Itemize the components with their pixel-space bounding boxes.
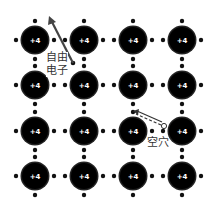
- valence-electron: [14, 129, 18, 133]
- valence-electron: [131, 148, 135, 152]
- valence-electron: [131, 102, 135, 106]
- atom: +4: [14, 155, 56, 197]
- atom-charge-label: +4: [79, 82, 90, 90]
- valence-electron: [180, 102, 184, 106]
- valence-electron: [63, 174, 67, 178]
- valence-electron: [180, 19, 184, 23]
- valence-electron: [112, 83, 116, 87]
- valence-electron: [33, 110, 37, 114]
- valence-electron: [180, 148, 184, 152]
- valence-electron: [14, 83, 18, 87]
- atom-charge-label: +4: [79, 128, 90, 136]
- valence-electron: [33, 102, 37, 106]
- atom: +4: [63, 64, 105, 106]
- valence-electron: [199, 129, 203, 133]
- atom-charge-label: +4: [30, 37, 41, 45]
- valence-electron: [150, 129, 154, 133]
- valence-electron: [82, 57, 86, 61]
- valence-electron: [33, 155, 37, 159]
- valence-electron: [131, 57, 135, 61]
- valence-electron: [63, 129, 67, 133]
- atom-charge-label: +4: [30, 82, 41, 90]
- silicon-lattice-diagram: +4+4+4+4+4+4+4+4+4+4+4+4+4+4+4+4: [0, 0, 218, 209]
- valence-electron: [33, 19, 37, 23]
- atom-charge-label: +4: [177, 173, 188, 181]
- atom-charge-label: +4: [79, 37, 90, 45]
- atom: +4: [14, 110, 56, 152]
- valence-electron: [150, 38, 154, 42]
- atom: +4: [112, 155, 154, 197]
- valence-electron: [52, 83, 56, 87]
- atom-charge-label: +4: [30, 128, 41, 136]
- valence-electron: [14, 38, 18, 42]
- atom-charge-label: +4: [128, 82, 139, 90]
- atoms-group: +4+4+4+4+4+4+4+4+4+4+4+4+4+4+4+4: [14, 19, 203, 197]
- valence-electron: [82, 64, 86, 68]
- valence-electron: [101, 129, 105, 133]
- hole-label: 空穴: [147, 137, 169, 149]
- atom: +4: [161, 64, 203, 106]
- valence-electron: [180, 64, 184, 68]
- valence-electron: [33, 193, 37, 197]
- valence-electron: [161, 174, 165, 178]
- atom: +4: [63, 155, 105, 197]
- valence-electron: [199, 83, 203, 87]
- valence-electron: [180, 193, 184, 197]
- valence-electron: [52, 174, 56, 178]
- valence-electron: [82, 155, 86, 159]
- valence-electron: [82, 193, 86, 197]
- valence-electron: [52, 129, 56, 133]
- atom-charge-label: +4: [128, 37, 139, 45]
- valence-electron: [180, 155, 184, 159]
- hole-circle: [161, 123, 166, 128]
- atom-charge-label: +4: [177, 82, 188, 90]
- valence-electron: [131, 155, 135, 159]
- valence-electron: [33, 64, 37, 68]
- valence-electron: [180, 57, 184, 61]
- valence-electron: [82, 110, 86, 114]
- atom-charge-label: +4: [128, 128, 139, 136]
- valence-electron: [63, 38, 67, 42]
- free-electron-label-1: 自由: [46, 52, 68, 64]
- atom-charge-label: +4: [128, 173, 139, 181]
- valence-electron: [131, 193, 135, 197]
- free-electron-label-2: 电子: [46, 65, 68, 77]
- valence-electron: [52, 38, 56, 42]
- valence-electron: [33, 57, 37, 61]
- valence-electron: [161, 38, 165, 42]
- valence-electron: [101, 38, 105, 42]
- atom: +4: [161, 19, 203, 61]
- valence-electron: [150, 83, 154, 87]
- valence-electron: [14, 174, 18, 178]
- atom: +4: [112, 19, 154, 61]
- valence-electron: [161, 83, 165, 87]
- valence-electron: [82, 148, 86, 152]
- atom-charge-label: +4: [177, 128, 188, 136]
- valence-electron: [199, 38, 203, 42]
- valence-electron: [161, 129, 165, 133]
- atom-charge-label: +4: [30, 173, 41, 181]
- valence-electron: [131, 64, 135, 68]
- valence-electron: [199, 174, 203, 178]
- valence-electron: [101, 83, 105, 87]
- valence-electron: [63, 83, 67, 87]
- valence-electron: [82, 102, 86, 106]
- atom: +4: [63, 110, 105, 152]
- atom: +4: [112, 64, 154, 106]
- valence-electron: [150, 174, 154, 178]
- valence-electron: [33, 148, 37, 152]
- valence-electron: [131, 19, 135, 23]
- valence-electron: [112, 38, 116, 42]
- atom-charge-label: +4: [79, 173, 90, 181]
- valence-electron: [112, 174, 116, 178]
- atom: +4: [161, 155, 203, 197]
- valence-electron: [82, 19, 86, 23]
- atom-charge-label: +4: [177, 37, 188, 45]
- valence-electron: [180, 110, 184, 114]
- valence-electron: [101, 174, 105, 178]
- valence-electron: [112, 129, 116, 133]
